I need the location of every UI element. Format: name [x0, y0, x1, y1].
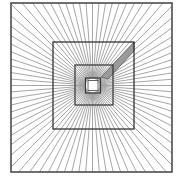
figure-container: Radiating rays over concentric squares: [0, 0, 183, 180]
innermost-square: [88, 81, 98, 91]
radiating-squares-figure: Radiating rays over concentric squares: [0, 0, 183, 180]
